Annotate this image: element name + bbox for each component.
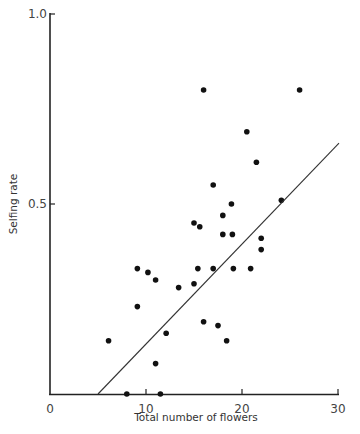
data-point [145, 270, 151, 276]
data-point [244, 129, 250, 135]
data-point [258, 235, 264, 241]
x-tick-label: 30 [330, 402, 345, 416]
data-point [153, 277, 159, 283]
scatter-chart: 01020300.51.0 Total number of flowers Se… [0, 0, 360, 434]
data-point [176, 285, 182, 291]
data-point [195, 266, 201, 272]
data-point [197, 224, 203, 230]
data-point [297, 87, 303, 93]
data-point [229, 201, 235, 207]
x-tick-label: 0 [46, 402, 54, 416]
data-point [210, 266, 216, 272]
data-point [135, 266, 141, 272]
data-point [106, 338, 112, 344]
data-point [201, 319, 207, 325]
y-tick-label: 0.5 [28, 197, 47, 211]
data-point [163, 330, 169, 336]
data-point [135, 304, 141, 310]
data-point [254, 159, 260, 165]
data-point [153, 361, 159, 367]
x-axis-title: Total number of flowers [133, 411, 258, 423]
data-point [230, 232, 236, 238]
regression-line [98, 143, 339, 394]
data-point [220, 232, 226, 238]
data-point [191, 281, 197, 287]
data-point [248, 266, 254, 272]
data-point [191, 220, 197, 226]
data-point [210, 182, 216, 188]
data-point [224, 338, 230, 344]
data-point [124, 391, 130, 397]
data-point [215, 323, 221, 329]
data-point [220, 213, 226, 219]
data-points [106, 87, 303, 397]
data-point [258, 247, 264, 253]
data-point [201, 87, 207, 93]
data-point [279, 197, 285, 203]
y-axis-title: Selfing rate [7, 174, 19, 235]
axes [49, 13, 339, 395]
data-point [158, 391, 164, 397]
y-tick-label: 1.0 [28, 7, 47, 21]
ticks: 01020300.51.0 [28, 7, 346, 416]
data-point [231, 266, 237, 272]
